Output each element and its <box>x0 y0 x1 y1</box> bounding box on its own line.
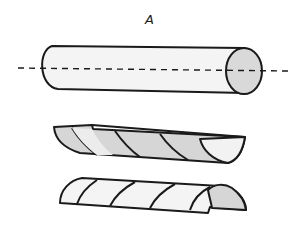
lower-half-shell <box>60 178 246 213</box>
whole-cylinder <box>18 46 288 94</box>
figure-label: A <box>145 13 154 26</box>
lower-shell-end-cap <box>208 185 246 210</box>
cylinder-diagram <box>0 0 303 227</box>
upper-half-shell <box>54 125 245 163</box>
